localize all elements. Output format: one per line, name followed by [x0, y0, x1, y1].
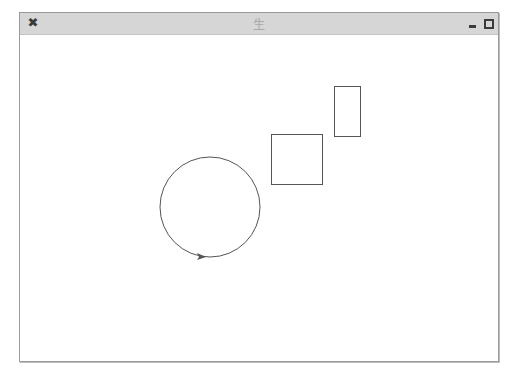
arrow-right-icon [197, 253, 206, 260]
square-shape[interactable] [272, 135, 323, 185]
tall-rect-shape[interactable] [335, 87, 361, 137]
circle-shape[interactable] [160, 157, 260, 257]
shapes-layer [0, 0, 526, 382]
